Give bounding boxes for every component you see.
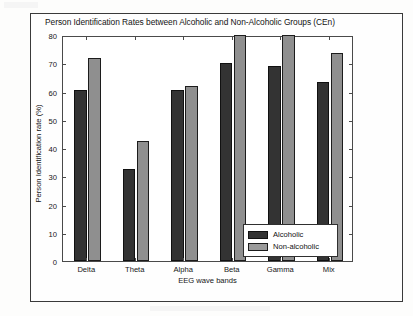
x-tick-mark (135, 258, 136, 262)
legend-label-non-alcoholic: Non-alcoholic (273, 242, 319, 251)
bar-alpha-alcoholic (171, 90, 184, 261)
x-tick-mark (183, 258, 184, 262)
bar-beta-alcoholic (220, 63, 233, 261)
bar-delta-non-alcoholic (88, 58, 101, 261)
y-tick-label: 80 (35, 32, 57, 41)
bar-theta-non-alcoholic (137, 141, 150, 261)
y-tick-mark (349, 121, 353, 122)
scan-artifact (4, 2, 38, 8)
x-tick-label: Alpha (174, 265, 193, 274)
y-tick-label: 40 (35, 145, 57, 154)
x-tick-mark (329, 36, 330, 40)
y-tick-label: 70 (35, 60, 57, 69)
y-tick-mark (62, 234, 66, 235)
y-tick-label: 0 (35, 258, 57, 267)
x-tick-label: Theta (125, 265, 144, 274)
y-axis-label: Person Identification rate (%) (34, 54, 43, 254)
x-axis-label: EEG wave bands (62, 276, 353, 285)
y-tick-label: 10 (35, 229, 57, 238)
chart-title: Person Identification Rates between Alco… (45, 17, 405, 31)
x-tick-mark (86, 258, 87, 262)
bar-theta-alcoholic (123, 169, 136, 261)
y-tick-mark (349, 93, 353, 94)
y-tick-label: 30 (35, 173, 57, 182)
chart-legend[interactable]: Alcoholic Non-alcoholic (243, 224, 338, 257)
y-tick-label: 50 (35, 116, 57, 125)
y-tick-mark (349, 234, 353, 235)
y-tick-mark (349, 149, 353, 150)
x-tick-mark (135, 36, 136, 40)
x-tick-mark (86, 36, 87, 40)
bar-delta-alcoholic (74, 90, 87, 261)
x-tick-mark (183, 36, 184, 40)
y-tick-mark (349, 177, 353, 178)
x-tick-mark (329, 258, 330, 262)
y-tick-mark (349, 206, 353, 207)
y-tick-label: 60 (35, 88, 57, 97)
figure-canvas: Person Identification Rates between Alco… (0, 0, 413, 316)
legend-item-non-alcoholic: Non-alcoholic (248, 241, 333, 252)
x-tick-mark (280, 36, 281, 40)
x-tick-mark (232, 36, 233, 40)
x-tick-label: Beta (224, 265, 240, 274)
y-tick-mark (62, 149, 66, 150)
x-tick-mark (280, 258, 281, 262)
legend-swatch-non-alcoholic (248, 243, 268, 251)
bar-alpha-non-alcoholic (185, 86, 198, 261)
y-tick-mark (62, 206, 66, 207)
y-tick-label: 20 (35, 201, 57, 210)
y-tick-mark (62, 93, 66, 94)
y-tick-mark (62, 121, 66, 122)
y-tick-mark (349, 64, 353, 65)
y-tick-mark (62, 177, 66, 178)
legend-label-alcoholic: Alcoholic (273, 230, 303, 239)
legend-item-alcoholic: Alcoholic (248, 229, 333, 240)
x-tick-mark (232, 258, 233, 262)
x-tick-label: Gamma (267, 265, 294, 274)
x-tick-label: Delta (77, 265, 95, 274)
x-tick-label: Mix (323, 265, 335, 274)
y-tick-mark (62, 64, 66, 65)
legend-swatch-alcoholic (248, 231, 268, 239)
scan-artifact (150, 306, 270, 311)
